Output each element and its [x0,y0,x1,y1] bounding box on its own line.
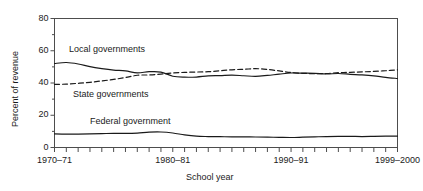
chart-series [55,63,398,138]
chart-axes [51,19,398,153]
x-tick-label: 1990–91 [274,155,309,165]
series-annotation-state-governments: State governments [73,89,149,99]
series-annotation-federal-government: Federal government [90,116,171,126]
x-axis-title: School year [186,172,234,182]
x-tick-label: 1970–71 [37,155,72,165]
y-tick-label: 40 [27,77,49,87]
x-tick-label: 1980–81 [155,155,190,165]
x-tick-label: 1999–2000 [375,155,420,165]
y-tick-label: 60 [27,45,49,55]
y-axis-title: Percent of revenue [10,51,20,127]
y-tick-label: 80 [27,13,49,23]
series-annotation-local-governments: Local governments [69,44,145,54]
y-tick-label: 20 [27,109,49,119]
series-line-federal-government [55,132,398,138]
chart-figure: Percent of revenue School year 020406080… [0,0,423,191]
series-line-state-governments [55,69,398,85]
y-tick-label: 0 [27,142,49,152]
